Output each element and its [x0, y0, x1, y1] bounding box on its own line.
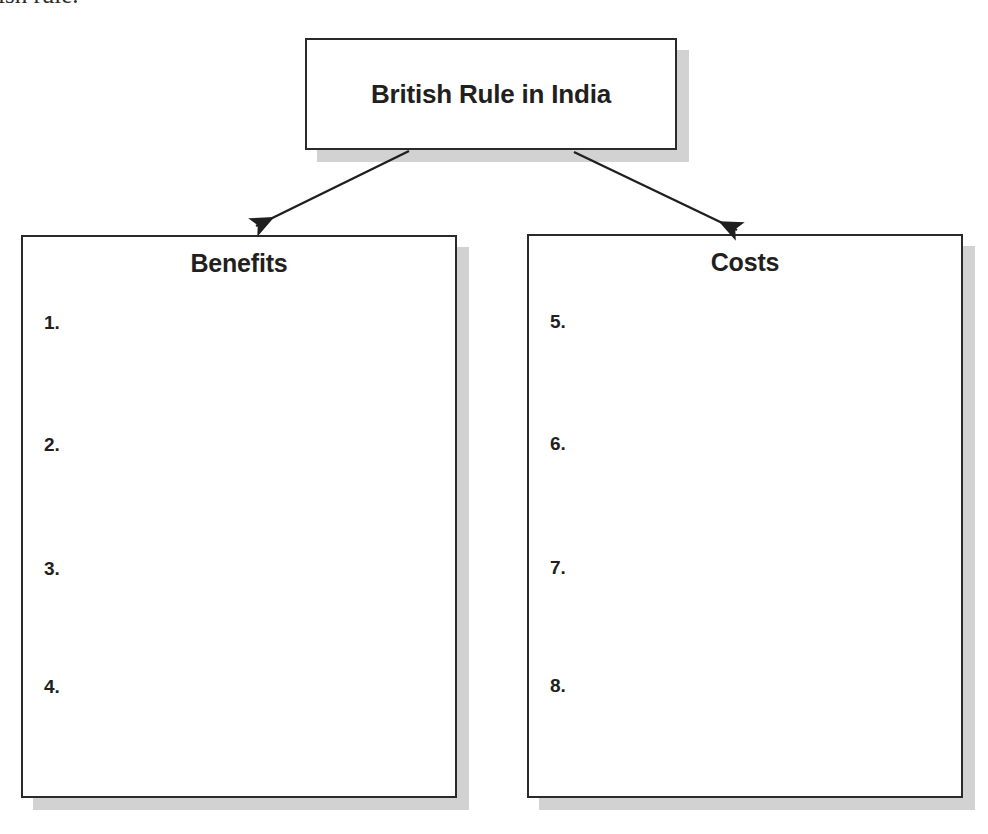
worksheet-page: ish rule. British Rule in India — [0, 0, 988, 834]
costs-heading: Costs — [529, 248, 961, 277]
arrow-to-costs-icon — [574, 152, 737, 230]
list-item[interactable]: 7. — [550, 557, 566, 579]
list-item[interactable]: 4. — [44, 676, 60, 698]
list-item[interactable]: 3. — [44, 558, 60, 580]
arrow-to-benefits-icon — [256, 151, 409, 226]
clipped-text-above: ish rule. — [0, 0, 258, 14]
list-item[interactable]: 6. — [550, 433, 566, 455]
costs-box[interactable]: Costs 5. 6. 7. 8. — [527, 234, 963, 798]
title-box[interactable]: British Rule in India — [305, 38, 677, 150]
costs-list: 5. 6. 7. 8. — [550, 299, 951, 788]
list-item[interactable]: 1. — [44, 312, 60, 334]
list-item[interactable]: 2. — [44, 434, 60, 456]
page-title: British Rule in India — [307, 40, 675, 148]
benefits-list: 1. 2. 3. 4. — [44, 300, 445, 788]
list-item[interactable]: 5. — [550, 311, 566, 333]
benefits-heading: Benefits — [23, 249, 455, 278]
list-item[interactable]: 8. — [550, 675, 566, 697]
benefits-box[interactable]: Benefits 1. 2. 3. 4. — [21, 235, 457, 798]
clipped-text-above-label: ish rule. — [0, 0, 258, 10]
